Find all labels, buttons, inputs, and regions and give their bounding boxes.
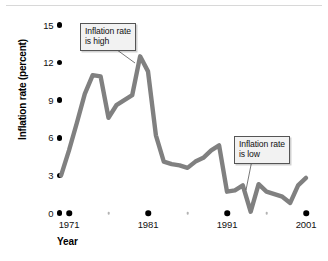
callout-high-line2: is high	[85, 36, 131, 46]
inflation-rate-chart: Inflation rate (percent) 15 12 9 6 3 0 1…	[0, 0, 328, 261]
callout-low-line2: is low	[239, 149, 285, 159]
callout-leader-line-low	[246, 160, 252, 190]
callout-high-line1: Inflation rate	[85, 26, 131, 36]
callout-inflation-high: Inflation rate is high	[80, 23, 136, 51]
callout-low-line1: Inflation rate	[239, 139, 285, 149]
plot-area	[0, 0, 328, 261]
inflation-rate-line	[61, 56, 306, 211]
callout-inflation-low: Inflation rate is low	[234, 136, 290, 164]
